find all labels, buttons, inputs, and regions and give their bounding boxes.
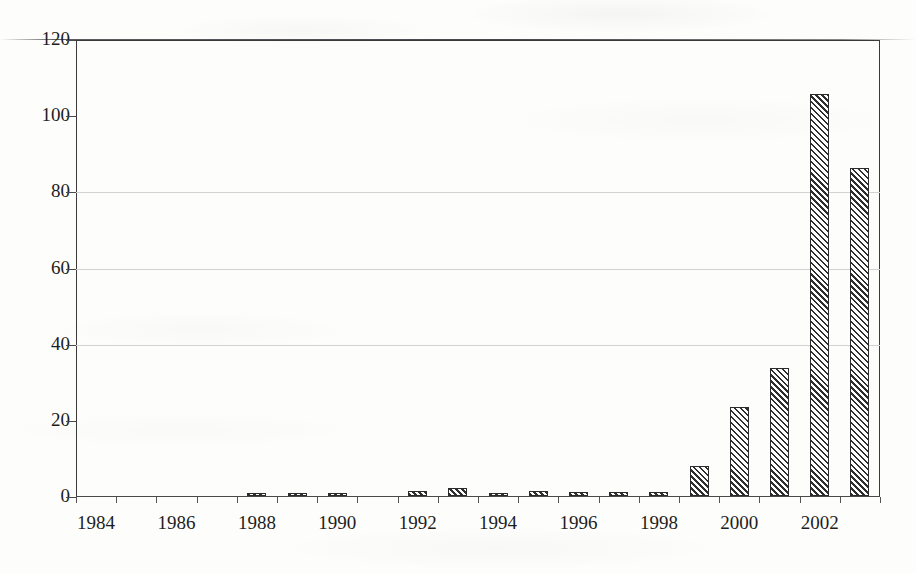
- plot-area: [76, 40, 880, 497]
- y-axis-tick-mark: [66, 497, 76, 498]
- plot-border-top: [76, 40, 880, 41]
- x-axis-tick-mark: [398, 497, 399, 503]
- x-axis-tick-mark: [558, 497, 559, 503]
- x-axis-label-1998: 1998: [640, 512, 678, 534]
- scanned-chart-page: 020406080100120 198419861988199019921994…: [0, 0, 916, 574]
- bar-2003: [850, 168, 869, 496]
- x-axis-tick-mark: [800, 497, 801, 503]
- x-axis-tick-mark: [237, 497, 238, 503]
- x-axis-tick-mark: [277, 497, 278, 503]
- y-axis-tick-mark: [66, 116, 76, 117]
- x-axis-tick-mark: [116, 497, 117, 503]
- x-axis-tick-mark: [840, 497, 841, 503]
- y-axis-tick-label: 20: [51, 409, 70, 431]
- x-axis-line: [76, 496, 880, 497]
- x-axis-tick-mark: [357, 497, 358, 503]
- x-axis-tick-mark: [518, 497, 519, 503]
- gridline-60: [76, 269, 880, 270]
- x-axis-label-1996: 1996: [560, 512, 598, 534]
- x-axis-tick-mark: [317, 497, 318, 503]
- gridline-80: [76, 192, 880, 193]
- x-axis-tick-mark: [679, 497, 680, 503]
- x-axis-label-1984: 1984: [77, 512, 115, 534]
- y-axis-tick-mark: [66, 345, 76, 346]
- y-axis-tick-mark: [66, 192, 76, 193]
- x-axis-tick-mark: [478, 497, 479, 503]
- y-axis-tick-mark: [66, 421, 76, 422]
- bar-2002: [810, 94, 829, 496]
- x-axis-tick-mark: [76, 497, 77, 503]
- x-axis-tick-mark: [156, 497, 157, 503]
- x-axis-label-1992: 1992: [399, 512, 437, 534]
- x-axis-label-1994: 1994: [479, 512, 517, 534]
- x-axis-label-1990: 1990: [318, 512, 356, 534]
- y-axis-tick-mark: [66, 40, 76, 41]
- y-axis-tick-label: 100: [42, 104, 71, 126]
- x-axis-tick-mark: [599, 497, 600, 503]
- y-axis-tick-label: 0: [61, 485, 71, 507]
- bar-2000: [730, 407, 749, 496]
- y-axis-tick-label: 60: [51, 257, 70, 279]
- y-axis-tick-label: 80: [51, 180, 70, 202]
- x-axis-tick-mark: [639, 497, 640, 503]
- bar-1999: [690, 466, 709, 496]
- x-axis-tick-mark: [719, 497, 720, 503]
- x-axis-tick-mark: [438, 497, 439, 503]
- bar-2001: [770, 368, 789, 496]
- x-axis-tick-mark: [880, 497, 881, 503]
- x-axis-label-1988: 1988: [238, 512, 276, 534]
- x-axis-tick-mark: [197, 497, 198, 503]
- x-axis-label-2002: 2002: [801, 512, 839, 534]
- x-axis-label-1986: 1986: [158, 512, 196, 534]
- y-axis-tick-label: 120: [42, 28, 71, 50]
- bar-1993: [448, 488, 467, 496]
- y-axis-tick-mark: [66, 269, 76, 270]
- x-axis-tick-mark: [759, 497, 760, 503]
- x-axis-label-2000: 2000: [720, 512, 758, 534]
- y-axis-tick-label: 40: [51, 333, 70, 355]
- gridline-40: [76, 345, 880, 346]
